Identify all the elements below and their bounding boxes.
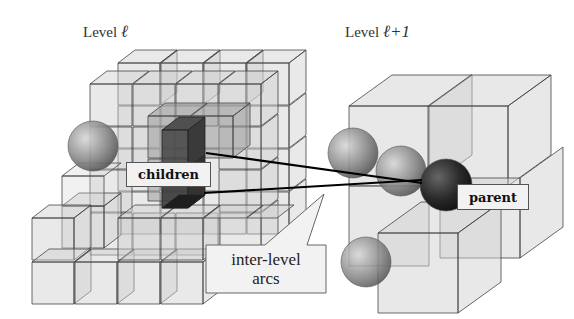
sphere-left xyxy=(68,121,118,171)
level-l1-title: Level ℓ+1 xyxy=(345,22,410,42)
callout-line-2: arcs xyxy=(206,269,326,288)
parent-label: parent xyxy=(457,184,529,210)
children-label: children xyxy=(126,162,211,187)
callout-text: inter-level arcs xyxy=(206,250,326,288)
callout-line-1: inter-level xyxy=(206,250,326,269)
level-symbol: ℓ xyxy=(121,22,128,41)
sphere-right-3 xyxy=(341,237,391,287)
sphere-right-2 xyxy=(376,146,426,196)
title-prefix: Level xyxy=(83,24,121,40)
level-l-title: Level ℓ xyxy=(83,22,128,42)
level-symbol: ℓ+1 xyxy=(383,22,410,41)
title-prefix: Level xyxy=(345,24,383,40)
